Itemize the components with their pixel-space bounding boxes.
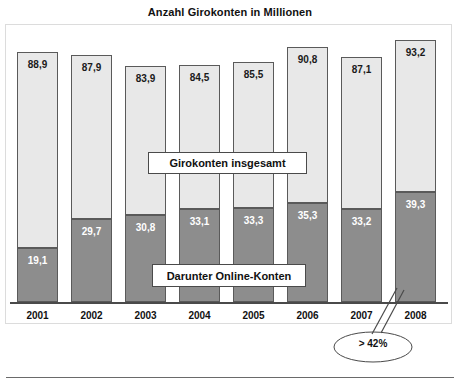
bars-layer: 88,919,187,929,783,930,884,533,185,533,3… [0,0,460,385]
x-axis-tick-label: 2005 [233,310,274,321]
bar-segment-online: 33,1 [179,209,220,302]
bar-segment-total: 93,2 [395,40,436,191]
bar-segment-total: 83,9 [125,66,166,215]
bar-segment-online: 19,1 [17,248,58,302]
bar-value-label-online: 19,1 [28,256,47,266]
bar-segment-online: 33,2 [341,209,382,302]
bar-segment-total: 88,9 [17,52,58,248]
bar-value-label-online: 39,3 [406,200,425,210]
bar-segment-online: 30,8 [125,215,166,302]
annotation-label: > 42% [334,338,412,349]
x-axis-tick-label: 2001 [17,310,58,321]
bar-value-label-online: 29,7 [82,227,101,237]
x-axis-tick-label: 2003 [125,310,166,321]
bar-group: 87,929,7 [71,55,112,302]
bar-value-label-online: 33,1 [190,217,209,227]
bar-value-label-online: 33,2 [352,217,371,227]
legend-online-callout: Darunter Online-Konten [152,264,306,287]
bar-segment-online: 39,3 [395,192,436,302]
bar-value-label-total: 90,8 [298,55,317,65]
bar-value-label-total: 87,9 [82,63,101,73]
bottom-divider [6,377,454,378]
bar-value-label-total: 84,5 [190,73,209,83]
bar-segment-total: 84,5 [179,65,220,209]
bar-segment-online: 33,3 [233,208,274,302]
x-axis-tick-label: 2002 [71,310,112,321]
bar-segment-total: 87,9 [71,55,112,219]
x-axis-tick-label: 2004 [179,310,220,321]
bar-value-label-total: 87,1 [352,65,371,75]
bar-value-label-total: 85,5 [244,70,263,80]
bar-value-label-online: 35,3 [298,211,317,221]
bar-value-label-online: 30,8 [136,223,155,233]
bar-group: 93,239,3 [395,40,436,302]
bar-group: 88,919,1 [17,52,58,302]
bar-segment-total: 90,8 [287,47,328,203]
bar-group: 87,133,2 [341,57,382,302]
bar-segment-online: 29,7 [71,219,112,302]
bar-value-label-total: 93,2 [406,48,425,58]
x-axis-line [10,302,448,304]
chart-container: Anzahl Girokonten in Millionen 88,919,18… [0,0,460,385]
bar-segment-online: 35,3 [287,203,328,302]
x-axis-tick-label: 2007 [341,310,382,321]
bar-value-label-total: 83,9 [136,74,155,84]
x-axis-tick-label: 2008 [395,310,436,321]
bar-segment-total: 87,1 [341,57,382,208]
x-axis-tick-label: 2006 [287,310,328,321]
bar-segment-total: 85,5 [233,62,274,209]
legend-total-callout: Girokonten insgesamt [148,152,307,174]
bar-value-label-online: 33,3 [244,216,263,226]
bar-value-label-total: 88,9 [28,60,47,70]
